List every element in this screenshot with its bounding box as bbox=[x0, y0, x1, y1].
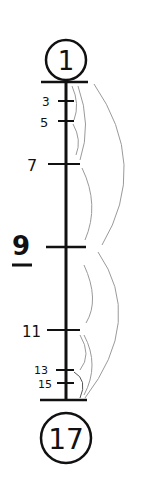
arc-9-17 bbox=[85, 252, 119, 398]
tick-label-13: 13 bbox=[34, 364, 48, 377]
arc-9-13 bbox=[84, 265, 93, 323]
arc-1-5 bbox=[72, 86, 77, 120]
arcs bbox=[72, 84, 124, 398]
end-node-label: 17 bbox=[48, 423, 84, 456]
tick-label-11: 11 bbox=[22, 323, 41, 341]
arc-11-17 bbox=[84, 335, 92, 395]
tick-label-15: 15 bbox=[38, 378, 52, 391]
arc-1-9 bbox=[94, 84, 124, 245]
number-line-diagram: 3 5 7 9 11 13 15 1 17 bbox=[0, 0, 151, 481]
tick-label-3: 3 bbox=[42, 95, 50, 109]
arc-7-9 bbox=[82, 168, 92, 240]
tick-label-7: 7 bbox=[27, 156, 37, 175]
arc-13-17 bbox=[74, 372, 83, 398]
arc-5-9 bbox=[73, 124, 78, 155]
arc-11-15 bbox=[80, 335, 86, 370]
tick-label-9: 9 bbox=[12, 231, 30, 261]
start-node-label: 1 bbox=[58, 46, 75, 76]
arc-1-7 bbox=[78, 86, 86, 160]
tick-label-5: 5 bbox=[40, 115, 48, 130]
